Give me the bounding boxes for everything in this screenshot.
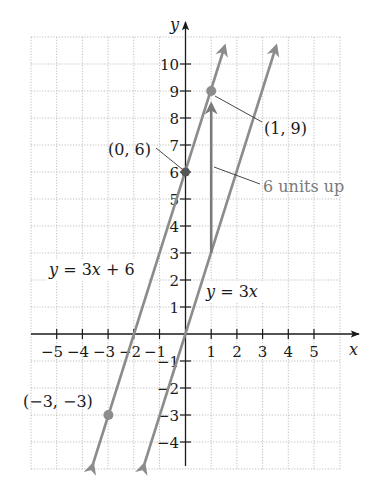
y-axis-label: y [169, 15, 180, 34]
label-point-0-6: (0, 6) [108, 140, 151, 159]
label-6-units-up: 6 units up [263, 177, 344, 196]
svg-text:−3: −3 [93, 343, 115, 361]
svg-text:10: 10 [160, 56, 179, 74]
svg-text:3: 3 [258, 343, 268, 361]
label-point-1-9: (1, 9) [264, 119, 307, 138]
svg-text:3: 3 [169, 245, 179, 263]
label-point-neg3-neg3: (−3, −3) [23, 392, 93, 411]
svg-text:7: 7 [169, 137, 179, 155]
svg-text:−5: −5 [41, 343, 63, 361]
label-eq-y-3x: y = 3x [205, 282, 258, 301]
svg-text:8: 8 [169, 110, 179, 128]
svg-text:9: 9 [169, 83, 179, 101]
line-y-3x-plus-6 [93, 46, 225, 464]
svg-text:1: 1 [169, 299, 179, 317]
svg-text:6: 6 [169, 164, 179, 182]
svg-text:−4: −4 [67, 343, 89, 361]
x-axis-label: x [349, 340, 358, 359]
chart-canvas: x y −5 −4 −3 −2 −1 1 2 3 4 5 [0, 0, 382, 486]
svg-text:1: 1 [206, 343, 216, 361]
svg-text:2: 2 [169, 272, 179, 290]
point-0-6 [181, 168, 190, 177]
svg-text:4: 4 [284, 343, 294, 361]
svg-text:2: 2 [232, 343, 242, 361]
point-1-9 [206, 86, 216, 96]
svg-text:−4: −4 [157, 434, 179, 452]
label-eq-y-3x-plus-6: y = 3x + 6 [48, 260, 135, 279]
point-neg3-neg3 [103, 410, 113, 420]
svg-text:5: 5 [309, 343, 319, 361]
